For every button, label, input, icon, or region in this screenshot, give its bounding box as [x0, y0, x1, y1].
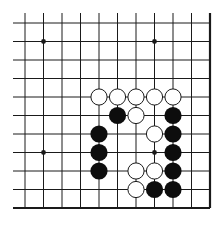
black-stone[interactable] — [146, 181, 163, 198]
white-stone[interactable] — [128, 107, 144, 123]
star-point — [41, 150, 46, 155]
white-stone[interactable] — [128, 163, 144, 179]
star-point — [152, 39, 157, 44]
white-stone[interactable] — [128, 89, 144, 105]
white-stone[interactable] — [91, 89, 107, 105]
star-point — [152, 150, 157, 155]
white-stone[interactable] — [146, 163, 162, 179]
white-stone[interactable] — [146, 126, 162, 142]
white-stone[interactable] — [165, 89, 181, 105]
black-stone[interactable] — [90, 144, 107, 161]
black-stone[interactable] — [109, 107, 126, 124]
white-stone[interactable] — [128, 181, 144, 197]
black-stone[interactable] — [164, 162, 181, 179]
white-stone[interactable] — [146, 89, 162, 105]
black-stone[interactable] — [164, 144, 181, 161]
star-point — [41, 39, 46, 44]
black-stone[interactable] — [164, 107, 181, 124]
black-stone[interactable] — [164, 125, 181, 142]
black-stone[interactable] — [164, 181, 181, 198]
go-board[interactable] — [0, 0, 224, 227]
black-stone[interactable] — [90, 125, 107, 142]
white-stone[interactable] — [109, 89, 125, 105]
black-stone[interactable] — [90, 162, 107, 179]
